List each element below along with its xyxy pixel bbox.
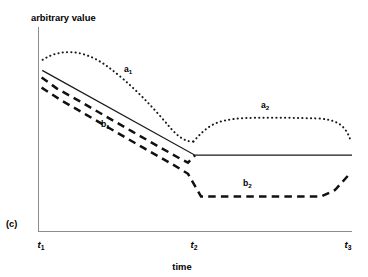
series-a1-dotted bbox=[43, 52, 194, 142]
series-b2-dashed bbox=[42, 88, 349, 197]
panel-label: (c) bbox=[6, 219, 17, 229]
series-label-b2: b2 bbox=[243, 178, 252, 189]
x-axis-label: time bbox=[172, 261, 191, 272]
x-tick-labels: t1 t2 t3 bbox=[38, 239, 352, 251]
series-label-b1: b1 bbox=[101, 119, 110, 130]
series-a2-dotted bbox=[194, 118, 351, 142]
series-label-a2: a2 bbox=[261, 100, 270, 111]
y-axis-label: arbitrary value bbox=[31, 12, 96, 23]
x-tick-t3: t3 bbox=[345, 239, 352, 251]
chart-canvas: a1 a2 b1 b2 arbitrary value time t1 t2 t… bbox=[0, 0, 368, 277]
axis-group bbox=[38, 27, 352, 232]
series-b1-dashed bbox=[42, 77, 195, 162]
series-label-a1: a1 bbox=[124, 64, 133, 75]
figure-panel-c: a1 a2 b1 b2 arbitrary value time t1 t2 t… bbox=[0, 0, 368, 277]
x-tick-t2: t2 bbox=[191, 239, 198, 251]
x-tick-t1: t1 bbox=[38, 239, 45, 251]
series-solid-reference bbox=[42, 70, 352, 155]
